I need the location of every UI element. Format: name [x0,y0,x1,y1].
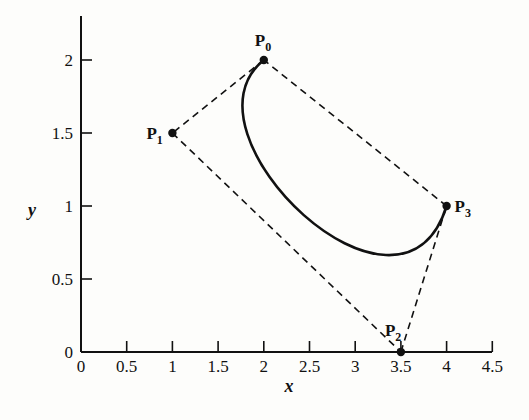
control-point-label: P1 [146,124,162,147]
y-tick-label: 1.5 [52,124,73,143]
x-ticks: 00.511.522.533.544.5 [77,341,503,376]
control-point-dot [442,202,450,210]
x-axis-label: x [284,376,294,396]
control-point-label: P3 [455,197,471,220]
x-tick-label: 3.5 [390,357,411,376]
x-tick-label: 2.5 [299,357,320,376]
x-tick-label: 0.5 [116,357,137,376]
y-tick-label: 0 [65,343,74,362]
control-polygon-edge [264,60,447,206]
control-polygon-edge [172,133,401,352]
control-polygon [172,60,446,352]
y-tick-label: 1 [65,197,74,216]
control-polygon-edge [401,206,447,352]
control-point-label: P0 [255,31,271,54]
control-point-dot [168,129,176,137]
bezier-chart: 00.511.522.533.544.5 00.511.52 x y P0P1P… [0,0,529,420]
x-tick-label: 1.5 [207,357,228,376]
control-point-dot [397,348,405,356]
x-tick-label: 0 [77,357,86,376]
y-tick-label: 0.5 [52,270,73,289]
control-polygon-edge [172,60,263,133]
x-tick-label: 1 [168,357,177,376]
x-tick-label: 4 [442,357,451,376]
y-tick-label: 2 [65,51,74,70]
y-ticks: 00.511.52 [52,51,92,362]
y-axis-label: y [26,200,37,220]
control-point-dot [260,56,268,64]
control-point-label: P2 [385,321,401,344]
x-tick-label: 4.5 [482,357,503,376]
bezier-curve [242,60,446,255]
x-tick-label: 2 [260,357,269,376]
x-tick-label: 3 [351,357,360,376]
control-points: P0P1P2P3 [146,31,471,356]
axes [81,16,492,352]
